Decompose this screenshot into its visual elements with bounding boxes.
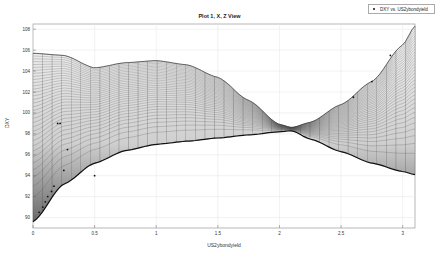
y-tick-label: 90 [25,215,31,220]
x-tick-label: 1.5 [215,231,222,236]
data-point [94,175,96,177]
x-axis-label: US2ybondyield [33,242,415,248]
data-point [38,211,40,213]
plot-area: 00.511.522.539092949698100102104106108 [0,0,439,254]
data-point [63,170,65,172]
x-tick-label: 0.5 [91,231,98,236]
y-tick-label: 94 [25,173,31,178]
y-tick-label: 92 [25,194,31,199]
y-tick-label: 102 [22,90,30,95]
x-tick-label: 1 [155,231,158,236]
data-point [53,185,55,187]
data-point [352,96,354,98]
y-tick-label: 96 [25,152,31,157]
y-tick-label: 98 [25,131,31,136]
y-tick-label: 100 [22,110,30,115]
x-tick-label: 3 [401,231,404,236]
y-tick-label: 106 [22,48,30,53]
x-tick-label: 2.5 [338,231,345,236]
data-point [44,201,46,203]
y-tick-label: 104 [22,69,30,74]
y-tick-label: 108 [22,27,30,32]
data-point [47,196,49,198]
data-point [51,190,53,192]
y-axis-label: DXY [4,118,10,128]
data-point [57,122,59,124]
data-point [371,81,373,83]
legend-label: DXY vs. US2ybondyield [380,7,428,12]
data-point [59,122,61,124]
legend-marker-icon [373,8,375,10]
figure: 00.511.522.539092949698100102104106108 P… [0,0,439,254]
data-point [389,54,391,56]
x-tick-label: 0 [32,231,35,236]
data-point [67,149,69,151]
x-tick-label: 2 [278,231,281,236]
data-point [42,206,44,208]
legend[interactable]: DXY vs. US2ybondyield [368,4,435,14]
